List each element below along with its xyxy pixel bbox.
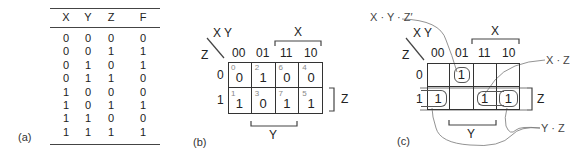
bracket-label-y: Y [467,127,475,141]
annotation-y-z: Y · Z [541,122,565,134]
corner-label-z: Z [402,48,409,62]
row-header-0: 0 [416,68,423,82]
cell-value: 1 [474,91,496,106]
kmap-cell: 1 [450,63,473,87]
col-header-01: 01 [455,46,468,60]
kmap-cell: 1 [497,87,520,111]
panel-label-c: (c) [397,135,410,147]
corner-label-xy: X Y [413,26,432,40]
cell-value: 1 [427,91,449,106]
kmap-cell [450,87,473,111]
bracket-label-x: X [491,24,499,38]
col-header-10: 10 [502,46,515,60]
col-header-11: 11 [478,46,490,60]
annotation-x-y-not-z: X · Y · Z′ [370,11,413,23]
annotation-x-z: X · Z [546,54,570,66]
kmap-cell [427,63,450,87]
cell-value: 1 [450,67,472,82]
kmap-cell [474,63,497,87]
kmap-cell: 1 [427,87,450,111]
cell-value: 1 [497,91,520,106]
kmap-cell: 1 [474,87,497,111]
kmap-grid: 1111 [427,63,520,110]
bracket-label-z: Z [537,92,544,106]
kmap-cell [497,63,520,87]
col-header-00: 00 [431,46,444,60]
